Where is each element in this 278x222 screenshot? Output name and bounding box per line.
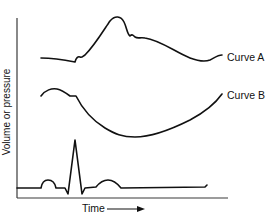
curve-b-label: Curve B: [227, 89, 265, 101]
arrow-right-icon: [107, 206, 145, 212]
x-axis-label: Time: [82, 202, 105, 214]
curve-a: [41, 17, 222, 62]
cardiac-cycle-diagram: Curve A Curve B Volume or pressure Time: [0, 0, 278, 222]
curve-a-label: Curve A: [227, 51, 264, 63]
y-axis-label: Volume or pressure: [1, 68, 12, 155]
curve-b: [41, 89, 222, 137]
ecg-trace: [17, 140, 207, 194]
